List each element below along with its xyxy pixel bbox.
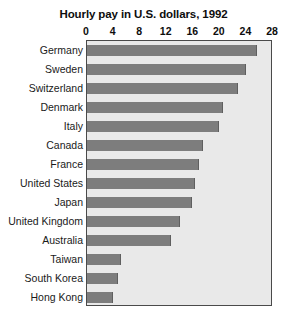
x-tick-label: 4 bbox=[110, 25, 116, 37]
x-axis-tick-labels: 0481216202428 bbox=[86, 25, 272, 39]
bar bbox=[87, 292, 113, 304]
bar-row bbox=[87, 83, 273, 95]
category-label: Switzerland bbox=[0, 83, 83, 94]
bar bbox=[87, 159, 199, 171]
x-tick-label: 8 bbox=[136, 25, 142, 37]
bar bbox=[87, 45, 257, 57]
category-label: United Kingdom bbox=[0, 216, 83, 227]
category-label: Germany bbox=[0, 45, 83, 56]
bar-row bbox=[87, 140, 273, 152]
x-tick-label: 0 bbox=[83, 25, 89, 37]
bar bbox=[87, 121, 219, 133]
category-label: Denmark bbox=[0, 102, 83, 113]
bar bbox=[87, 216, 180, 228]
bar bbox=[87, 102, 223, 114]
bar bbox=[87, 64, 246, 76]
bar bbox=[87, 83, 238, 95]
category-label: Hong Kong bbox=[0, 292, 83, 303]
category-label: South Korea bbox=[0, 273, 83, 284]
category-label: Canada bbox=[0, 140, 83, 151]
bar bbox=[87, 235, 171, 247]
bar bbox=[87, 178, 195, 190]
bar-row bbox=[87, 64, 273, 76]
bar-row bbox=[87, 235, 273, 247]
category-axis-labels: GermanySwedenSwitzerlandDenmarkItalyCana… bbox=[0, 40, 83, 306]
bar-row bbox=[87, 197, 273, 209]
x-tick-label: 16 bbox=[186, 25, 198, 37]
bar-row bbox=[87, 216, 273, 228]
category-label: Italy bbox=[0, 121, 83, 132]
bar-row bbox=[87, 254, 273, 266]
bar-row bbox=[87, 292, 273, 304]
bar bbox=[87, 254, 121, 266]
x-tick-label: 28 bbox=[266, 25, 278, 37]
bar bbox=[87, 273, 118, 285]
x-tick-label: 20 bbox=[213, 25, 225, 37]
bar-row bbox=[87, 121, 273, 133]
category-label: France bbox=[0, 159, 83, 170]
bar-row bbox=[87, 273, 273, 285]
plot-area bbox=[86, 40, 272, 306]
bar-row bbox=[87, 159, 273, 171]
bar-row bbox=[87, 178, 273, 190]
x-tick-label: 24 bbox=[240, 25, 252, 37]
bar-row bbox=[87, 102, 273, 114]
bar bbox=[87, 197, 192, 209]
category-label: United States bbox=[0, 178, 83, 189]
bar-row bbox=[87, 45, 273, 57]
category-label: Australia bbox=[0, 235, 83, 246]
x-tick-label: 12 bbox=[160, 25, 172, 37]
category-label: Taiwan bbox=[0, 254, 83, 265]
category-label: Sweden bbox=[0, 64, 83, 75]
bar bbox=[87, 140, 203, 152]
chart-title: Hourly pay in U.S. dollars, 1992 bbox=[0, 8, 287, 20]
hourly-pay-bar-chart: Hourly pay in U.S. dollars, 1992 0481216… bbox=[0, 0, 287, 323]
category-label: Japan bbox=[0, 197, 83, 208]
